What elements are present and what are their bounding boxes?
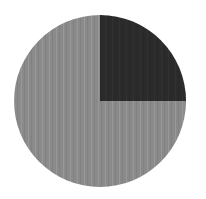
pie-chart-canvas — [0, 0, 206, 199]
pie-slice-highlighted-quarter[interactable] — [100, 15, 186, 101]
pie-chart-figure — [0, 0, 206, 199]
